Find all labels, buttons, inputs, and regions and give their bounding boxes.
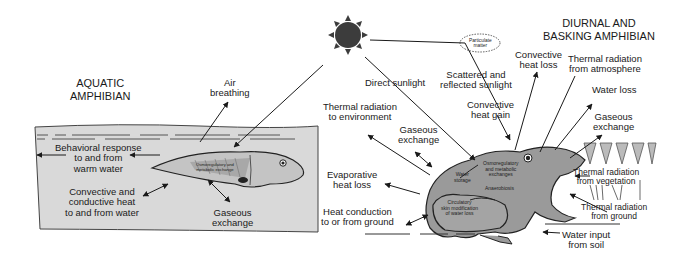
label-line: heat loss (327, 180, 377, 190)
tadpole-internal-label: Osmoregulatory and metabolic exchange (196, 163, 234, 172)
label-line: exchange (398, 135, 439, 145)
title-line: AQUATIC (70, 77, 131, 90)
label-line: exchanges (483, 172, 519, 178)
label-line: to and from water (65, 208, 139, 218)
label-line: Anaerobiosis (485, 186, 514, 192)
label-line: from soil (562, 240, 610, 250)
thermal-radiation-ground-label: Thermal radiation from ground (581, 203, 647, 221)
anaerobiosis-label: Anaerobiosis (485, 186, 514, 192)
amphibian-heat-exchange-diagram: AQUATIC AMPHIBIAN Air breathing Behavior… (0, 0, 676, 259)
label-line: exchange (212, 218, 253, 228)
direct-sunlight-label: Direct sunlight (365, 78, 425, 88)
water-input-soil-label: Water input from soil (562, 230, 610, 251)
thermal-radiation-environment-label: Thermal radiation to environment (323, 102, 397, 123)
thermal-radiation-vegetation-label: Thermal radiation from vegetation (573, 168, 639, 186)
label-line: Water loss (592, 85, 637, 95)
label-line: reflected sunlight (440, 80, 512, 90)
water-storage-label: Water storage (454, 172, 471, 183)
diurnal-basking-amphibian-title: DIURNAL AND BASKING AMPHIBIAN (543, 17, 655, 42)
scattered-sunlight-label: Scattered and reflected sunlight (440, 70, 512, 91)
gaseous-exchange-aquatic-label: Gaseous exchange (212, 208, 253, 229)
label-line: storage (454, 178, 471, 184)
thermal-radiation-atmosphere-label: Thermal radiation from atmosphere (568, 54, 642, 75)
vegetation-illustration (584, 143, 656, 164)
label-line: heat gain (467, 110, 514, 120)
gaseous-exchange-left-label: Gaseous exchange (398, 125, 439, 146)
convective-conductive-label: Convective and conductive heat to and fr… (65, 187, 139, 218)
evaporative-heat-loss-label: Evaporative heat loss (327, 170, 377, 191)
osmoregulatory-label: Osmoregulatory and metabolic exchanges (483, 161, 519, 178)
label-line: heat loss (515, 60, 562, 70)
label-line: matter (469, 43, 492, 48)
air-breathing-label: Air breathing (210, 78, 250, 99)
circulatory-label: Circulatory skin modification of water l… (441, 200, 478, 217)
label-line: to or from ground (321, 217, 394, 227)
sun-icon (328, 15, 368, 55)
title-line: DIURNAL AND (543, 17, 655, 30)
particulate-matter-label: Particulate matter (469, 38, 492, 49)
label-line: from ground (581, 212, 647, 221)
heat-conduction-ground-label: Heat conduction to or from ground (321, 207, 394, 228)
label-line: exchange (593, 122, 634, 132)
label-line: metabolic exchange (196, 168, 234, 173)
gaseous-exchange-right-label: Gaseous exchange (593, 112, 634, 133)
title-line: BASKING AMPHIBIAN (543, 30, 655, 43)
aquatic-amphibian-title: AQUATIC AMPHIBIAN (70, 77, 131, 102)
label-line: of water loss (441, 211, 478, 217)
label-line: warm water (55, 164, 142, 174)
label-line: to environment (323, 112, 397, 122)
label-line: breathing (210, 88, 250, 98)
behavioral-response-label: Behavioral response to and from warm wat… (55, 143, 142, 174)
label-line: from vegetation (573, 177, 639, 186)
label-line: Direct sunlight (365, 78, 425, 88)
label-line: from atmosphere (568, 64, 642, 74)
title-line: AMPHIBIAN (70, 90, 131, 103)
label-line: conductive heat (65, 197, 139, 207)
label-line: to and from (55, 153, 142, 163)
convective-heat-loss-label: Convective heat loss (515, 50, 562, 71)
convective-heat-gain-label: Convective heat gain (467, 100, 514, 121)
water-loss-label: Water loss (592, 85, 637, 95)
